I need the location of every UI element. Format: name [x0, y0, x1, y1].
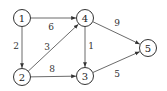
node-3: 3 [77, 68, 94, 85]
node-4: 4 [77, 10, 94, 27]
graph-diagram: 6238195 12345 [0, 0, 167, 91]
edge-2-to-3 [30, 76, 76, 77]
edge-weight-1-2: 2 [13, 41, 19, 51]
node-label: 3 [82, 71, 88, 82]
node-2: 2 [14, 69, 31, 86]
edge-weight-2-4: 3 [44, 42, 50, 52]
node-label: 2 [19, 72, 25, 83]
node-label: 5 [145, 43, 151, 54]
edge-weight-1-4: 6 [48, 22, 54, 32]
node-1: 1 [14, 10, 31, 27]
arrow-icon [30, 76, 76, 77]
node-label: 4 [82, 13, 88, 24]
node-5: 5 [140, 40, 157, 57]
edge-weight-2-3: 8 [49, 64, 55, 74]
node-label: 1 [19, 13, 25, 24]
edge-weight-3-5: 5 [114, 69, 120, 79]
edge-weight-4-3: 1 [88, 41, 94, 51]
edge-weight-4-5: 9 [114, 18, 120, 28]
